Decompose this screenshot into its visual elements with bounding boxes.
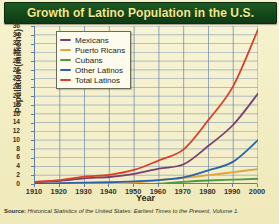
y-tick-label: 4 (0, 163, 20, 169)
y-tick-label: 34 (0, 32, 20, 38)
y-tick-label: 32 (0, 40, 20, 46)
y-tick-label: 22 (0, 84, 20, 90)
series-line-other-latinos (35, 140, 258, 183)
series-line-mexicans (35, 94, 258, 183)
y-tick-label: 8 (0, 146, 20, 152)
y-tick-label: 2 (0, 172, 20, 178)
page-title: Growth of Latino Population in the U.S. (27, 6, 254, 20)
legend-item: Puerto Ricans (60, 45, 125, 55)
x-tick-mark (207, 184, 208, 187)
legend-item-label: Puerto Ricans (75, 46, 125, 55)
chart-title-bar: Growth of Latino Population in the U.S. (4, 2, 277, 24)
y-tick-label: 36 (0, 23, 20, 29)
y-tick-label: 0 (0, 181, 20, 187)
y-tick-label: 10 (0, 137, 20, 143)
y-tick-label: 28 (0, 58, 20, 64)
legend-item-label: Other Latinos (75, 66, 123, 75)
legend-item: Mexicans (60, 35, 125, 45)
y-tick-label: 26 (0, 67, 20, 73)
legend-swatch-icon (60, 59, 71, 61)
legend-item: Cubans (60, 55, 125, 65)
legend-swatch-icon (60, 39, 71, 41)
y-tick-label: 14 (0, 119, 20, 125)
y-tick-label: 20 (0, 93, 20, 99)
chart-figure: Growth of Latino Population in the U.S. … (0, 0, 279, 224)
legend-swatch-icon (60, 79, 71, 81)
x-tick-mark (84, 184, 85, 187)
x-tick-mark (59, 184, 60, 187)
legend-item-label: Total Latinos (75, 76, 120, 85)
y-tick-label: 16 (0, 111, 20, 117)
legend-swatch-icon (60, 49, 71, 51)
y-tick-label: 6 (0, 154, 20, 160)
y-tick-label: 12 (0, 128, 20, 134)
legend-item: Other Latinos (60, 65, 125, 75)
y-tick-label: 30 (0, 49, 20, 55)
legend-item: Total Latinos (60, 75, 125, 85)
legend-item-label: Mexicans (75, 36, 109, 45)
source-note: Source: Historical Statistics of the Uni… (4, 208, 276, 214)
chart-legend: MexicansPuerto RicansCubansOther Latinos… (56, 31, 131, 89)
source-prefix: Source: (4, 208, 26, 214)
y-tick-label: 18 (0, 102, 20, 108)
x-tick-label: 2000 (240, 187, 274, 196)
y-tick-label: 24 (0, 75, 20, 81)
legend-swatch-icon (60, 69, 71, 71)
x-tick-mark (133, 184, 134, 187)
x-tick-mark (108, 184, 109, 187)
source-text: Historical Statistics of the United Stat… (28, 208, 239, 214)
x-tick-mark (232, 184, 233, 187)
legend-item-label: Cubans (75, 56, 103, 65)
x-tick-mark (257, 184, 258, 187)
x-tick-mark (34, 184, 35, 187)
x-tick-mark (183, 184, 184, 187)
x-tick-mark (158, 184, 159, 187)
